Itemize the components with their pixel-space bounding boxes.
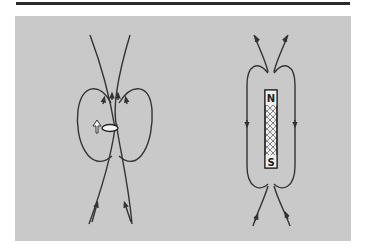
up-arrow-icon [93,120,101,133]
south-pole-label: S [267,157,274,168]
current-loop-icon [102,125,118,132]
north-pole-label: N [267,93,275,104]
field-lines-diagram: N S [0,0,366,250]
